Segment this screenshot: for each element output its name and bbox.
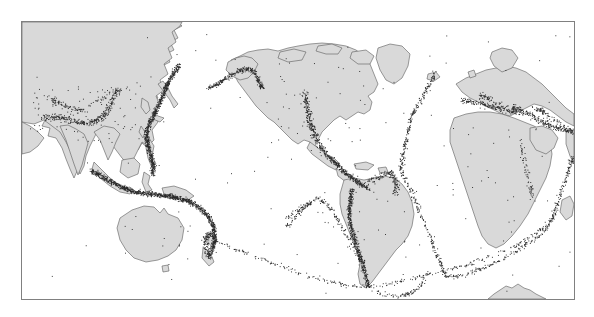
map-frame	[21, 21, 575, 300]
epicenter-scatter-layer	[22, 22, 574, 299]
epicenter-canvas	[22, 22, 574, 299]
world-earthquake-map-figure	[0, 0, 594, 317]
